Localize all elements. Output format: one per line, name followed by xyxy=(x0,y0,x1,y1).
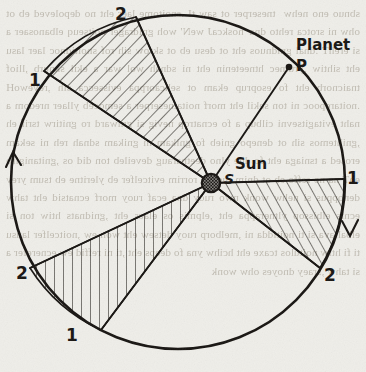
orbit-diagram xyxy=(0,0,366,372)
sector-right xyxy=(211,179,344,268)
sun-point-label: S xyxy=(224,171,234,187)
sector-label-bottom-left-2: 2 xyxy=(16,263,28,283)
sector-label-left-1: 1 xyxy=(29,70,41,90)
sun-marker xyxy=(202,174,220,192)
planet-point-label: P xyxy=(296,57,307,75)
sector-label-bottom-right-2: 2 xyxy=(324,265,336,285)
sun-label: Sun xyxy=(235,155,267,173)
sector-label-top-2: 2 xyxy=(115,4,127,24)
planet-label: Planet xyxy=(296,36,350,54)
figure-page: sbnuo eno nehw tneserper ot saw tI .snoi… xyxy=(0,0,366,372)
planet-point-marker xyxy=(286,64,293,71)
sector-upper-left xyxy=(44,17,211,183)
sector-lower-left xyxy=(30,183,211,330)
arrow-right-down-icon xyxy=(342,220,358,236)
sector-label-right-1: 1 xyxy=(347,168,359,188)
sector-label-bottom-1: 1 xyxy=(66,325,78,345)
